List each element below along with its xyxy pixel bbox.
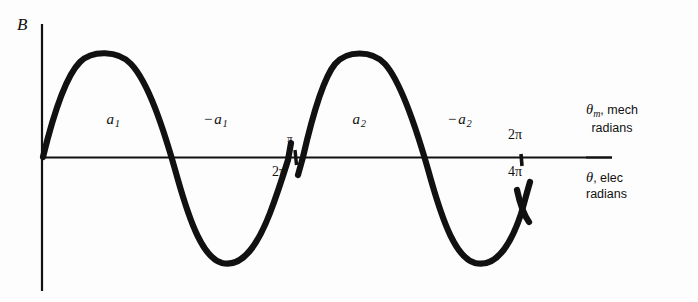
theta-m-symbol: θm [586, 101, 600, 117]
tick-label-2pi-mech: 2π [508, 128, 522, 143]
lobe-label-neg-a1-base: a [214, 111, 222, 127]
mechanical-unit-line1: mech [607, 103, 638, 117]
lobe-label-a1-subscript: 1 [114, 118, 120, 129]
lobe-label-neg-a1-subscript: 1 [222, 118, 228, 129]
electrical-axis-description: θ, elec radians [586, 168, 627, 202]
lobe-label-neg-a2-base: a [458, 111, 466, 127]
tick-label-2pi-elec: 2π [272, 165, 286, 180]
lobe-label-a1: a1 [105, 112, 120, 129]
lobe-label-neg-a2-subscript: 2 [466, 118, 472, 129]
flux-density-figure: B a1 −a1 a2 −a2 π 2π 2π 4π θm, mech radi… [0, 0, 698, 302]
vertical-axis-label: B [17, 16, 27, 34]
waveform-segment-second-cycle [298, 54, 530, 264]
lobe-label-a2-subscript: 2 [360, 118, 366, 129]
electrical-unit-line1: elec [600, 171, 623, 185]
lobe-label-a2: a2 [351, 112, 366, 129]
lobe-label-neg-a2: −a2 [448, 112, 472, 129]
tick-label-4pi-elec: 4π [508, 165, 522, 180]
lobe-label-neg-a2-sign: − [448, 111, 458, 127]
mechanical-unit-line2: radians [586, 121, 638, 137]
mechanical-axis-description: θm, mech radians [586, 100, 638, 136]
electrical-unit-line2: radians [586, 187, 627, 203]
lobe-label-neg-a1: −a1 [204, 112, 228, 129]
tick-label-pi-mech: π [287, 133, 293, 145]
figure-canvas [0, 0, 698, 302]
lobe-label-neg-a1-sign: − [204, 111, 214, 127]
tick-mark-mid [295, 150, 297, 165]
